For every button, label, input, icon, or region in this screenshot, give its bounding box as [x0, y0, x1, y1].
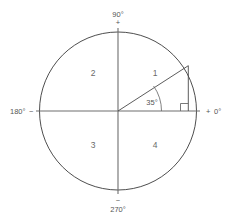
unit-circle-svg: 90° + − 270° 180° − + 0° 1 2 3 4 35°	[0, 0, 239, 223]
right-angle-marker	[181, 104, 189, 112]
angle-label: 35°	[146, 98, 157, 107]
unit-circle-diagram: 90° + − 270° 180° − + 0° 1 2 3 4 35°	[0, 0, 239, 223]
axis-label-left: 180°	[10, 107, 26, 116]
quadrant-label-2: 2	[91, 68, 96, 78]
axis-sign-bottom: −	[116, 196, 121, 205]
quadrant-label-1: 1	[153, 68, 158, 78]
axis-sign-top: +	[116, 18, 121, 27]
axis-label-right: 0°	[214, 107, 221, 116]
quadrant-label-3: 3	[91, 140, 96, 150]
axis-label-bottom: 270°	[110, 205, 126, 214]
axis-sign-left: −	[29, 107, 34, 116]
quadrant-label-4: 4	[153, 140, 158, 150]
axis-sign-right: +	[206, 107, 211, 116]
